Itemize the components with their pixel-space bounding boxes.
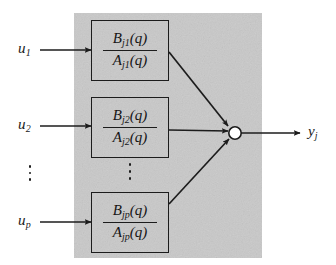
transfer-function-block-1[interactable]: Bj1(q) Aj1(q) — [91, 20, 169, 81]
block-2-to-node-line — [169, 130, 228, 131]
output-label-yj-base: y — [308, 123, 315, 139]
input-label-up-base: u — [18, 212, 26, 228]
input-label-up-sub: p — [26, 219, 31, 230]
output-label-yj: yj — [308, 123, 318, 141]
input-label-u2-base: u — [18, 116, 26, 132]
transfer-function-block-p[interactable]: Bjp(q) Ajp(q) — [91, 192, 169, 253]
input-label-u1-base: u — [18, 40, 26, 56]
input-label-u2: u2 — [18, 116, 31, 134]
input-label-up: up — [18, 212, 31, 230]
input-label-u2-sub: 2 — [26, 123, 31, 134]
numerator-2: Bj2(q) — [110, 108, 150, 127]
input-label-u1-sub: 1 — [26, 47, 31, 58]
fraction-1: Bj1(q) Aj1(q) — [103, 31, 157, 71]
fraction-p: Bjp(q) Ajp(q) — [103, 203, 157, 243]
denominator-2: Aj2(q) — [110, 128, 150, 147]
transfer-function-block-2[interactable]: Bj2(q) Aj2(q) — [91, 97, 169, 158]
summing-node — [229, 127, 241, 139]
output-label-yj-sub: j — [315, 130, 318, 141]
block-ellipsis-icon — [128, 163, 132, 180]
block-diagram-figure: Bj1(q) Aj1(q) Bj2(q) Aj2(q) Bjp(q) Ajp(q… — [0, 0, 336, 265]
numerator-1: Bj1(q) — [110, 31, 150, 50]
denominator-p: Ajp(q) — [110, 223, 150, 242]
input-ellipsis-icon — [28, 165, 32, 181]
input-label-u1: u1 — [18, 40, 31, 58]
denominator-1: Aj1(q) — [110, 51, 150, 70]
fraction-2: Bj2(q) Aj2(q) — [103, 108, 157, 148]
numerator-p: Bjp(q) — [110, 203, 150, 222]
